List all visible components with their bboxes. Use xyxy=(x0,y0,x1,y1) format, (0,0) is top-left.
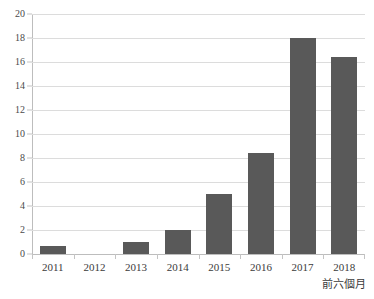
x-axis-tick-label: 2011 xyxy=(42,261,64,274)
bar-slot xyxy=(115,14,157,254)
x-axis-tick-label: 2015 xyxy=(208,261,230,274)
x-axis-tick xyxy=(74,254,75,259)
x-axis-ticks xyxy=(32,254,365,259)
bar-slot xyxy=(240,14,282,254)
x-axis-tick xyxy=(199,254,200,259)
x-axis-tick xyxy=(32,254,33,259)
bar-slot xyxy=(32,14,74,254)
y-axis-tick-label: 16 xyxy=(15,57,25,67)
y-axis-tick-label: 2 xyxy=(20,225,25,235)
x-axis-tick xyxy=(240,254,241,259)
bar xyxy=(123,242,149,254)
bar-slot xyxy=(199,14,241,254)
x-axis-tick xyxy=(115,254,116,259)
bar-slot xyxy=(74,14,116,254)
x-axis-tick xyxy=(323,254,324,259)
x-axis-tick xyxy=(282,254,283,259)
x-axis-tick xyxy=(157,254,158,259)
bar-series xyxy=(32,14,365,254)
x-axis-labels: 20112012201320142015201620172018 xyxy=(32,261,365,275)
bar xyxy=(248,153,274,254)
y-axis-tick-label: 10 xyxy=(15,129,25,139)
y-axis-tick-label: 18 xyxy=(15,33,25,43)
y-axis-tick-label: 4 xyxy=(20,201,25,211)
bar-slot xyxy=(157,14,199,254)
x-axis-tick-label: 2014 xyxy=(167,261,189,274)
chart-title-clipped xyxy=(30,0,330,3)
y-axis-tick-label: 8 xyxy=(20,153,25,163)
bar-chart: 02468101214161820 2011201220132014201520… xyxy=(0,0,374,299)
x-axis-tick-label: 2017 xyxy=(292,261,314,274)
x-axis-tick xyxy=(364,254,365,259)
y-axis-labels: 02468101214161820 xyxy=(0,0,32,299)
bar xyxy=(165,230,191,254)
bar xyxy=(206,194,232,254)
bar-slot xyxy=(282,14,324,254)
y-axis-tick-label: 14 xyxy=(15,81,25,91)
y-axis-tick-label: 20 xyxy=(15,9,25,19)
x-axis-tick-label: 2016 xyxy=(250,261,272,274)
bar xyxy=(331,57,357,254)
bar xyxy=(40,246,66,254)
x-axis-tick-label: 2012 xyxy=(83,261,105,274)
y-axis-tick-label: 6 xyxy=(20,177,25,187)
bar xyxy=(290,38,316,254)
bar-slot xyxy=(323,14,365,254)
y-axis-tick-label: 0 xyxy=(20,249,25,259)
x-axis-tick-label: 2018 xyxy=(333,261,355,274)
x-axis-annotation: 前六個月 xyxy=(322,278,366,291)
y-axis-tick-label: 12 xyxy=(15,105,25,115)
x-axis-tick-label: 2013 xyxy=(125,261,147,274)
